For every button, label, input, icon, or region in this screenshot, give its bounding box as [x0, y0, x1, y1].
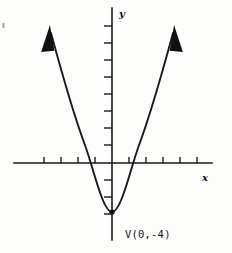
figure-background [0, 0, 232, 253]
x-axis-label: x [201, 172, 209, 183]
scan-artifact-speck [3, 23, 5, 28]
y-axis-label: y [118, 8, 126, 19]
parabola-figure: x y [0, 0, 232, 253]
figure-page: x y [0, 0, 232, 253]
vertex-label: V(0,-4) [125, 228, 171, 240]
vertex-point-marker [109, 209, 114, 214]
